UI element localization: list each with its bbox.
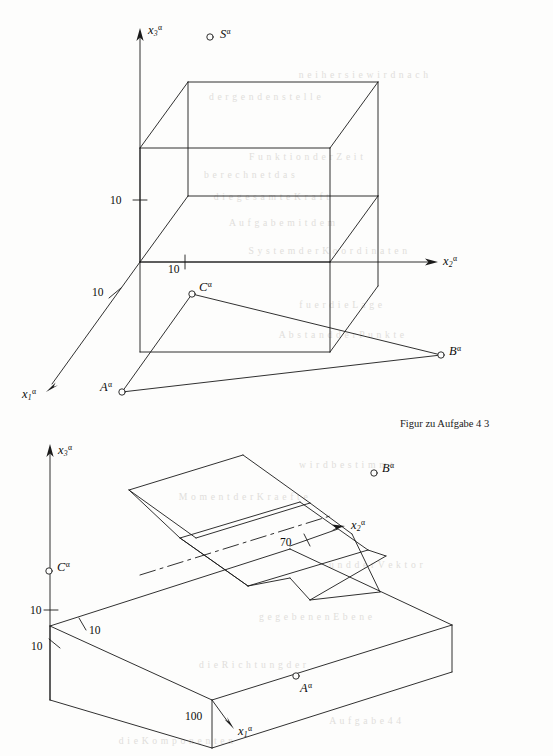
groove-exit-edge-lower: [310, 556, 386, 600]
box-bottom-left-edge: [140, 196, 188, 262]
point-label-base: A: [100, 380, 108, 394]
axis-label-base: x: [148, 23, 154, 37]
slab-top-front-left-edge: [50, 626, 212, 700]
axis-label-x3-lower: x3α: [58, 444, 72, 458]
point-label-superscript: α: [66, 560, 70, 569]
axis-label-superscript: α: [68, 443, 72, 452]
point-label-superscript: α: [457, 344, 461, 353]
lower-x1-tick-10: [49, 639, 60, 648]
point-label-superscript: α: [208, 280, 212, 289]
axis-label-x1-upper: x1α: [22, 388, 36, 402]
tick-label-70-x2-lower: 70: [280, 537, 292, 549]
groove-opening-back-edge: [129, 455, 243, 490]
triangle-edge-C-A: [122, 294, 192, 392]
box-top-left-edge: [140, 82, 188, 148]
point-label-A-lower: Aα: [300, 682, 312, 695]
axis-label-base: x: [238, 724, 244, 738]
point-label-A-upper: Aα: [100, 381, 112, 394]
point-marker-B-upper: [438, 352, 444, 358]
groove-floor-left-edge: [180, 538, 248, 586]
axis-label-superscript: α: [248, 724, 252, 733]
groove-exit-edge-left: [290, 578, 310, 600]
lower-x2-tick-10: [79, 618, 86, 630]
scanned-figure-page: n e i h e r s i e w i r d n a c hd e r g…: [0, 0, 553, 756]
triangle-edge-A-B: [122, 355, 441, 392]
figure-caption: Figur zu Aufgabe 4 3: [400, 418, 489, 429]
groove-floor-back-edge: [180, 502, 300, 538]
point-label-base: B: [382, 461, 390, 475]
tick-label-10-x2-upper: 10: [168, 264, 180, 276]
axis-label-superscript: α: [32, 387, 36, 396]
axis-label-x2-lower: x2α: [351, 519, 365, 533]
point-label-S-upper: Sα: [220, 28, 231, 41]
point-label-B-lower: Bα: [382, 462, 394, 475]
tick-label-10-x1-upper: 10: [92, 287, 104, 299]
point-marker-S: [207, 34, 213, 40]
point-label-superscript: α: [308, 681, 312, 690]
point-label-base: C: [57, 560, 65, 574]
point-label-superscript: α: [227, 27, 231, 36]
upper-figure-group: [46, 28, 444, 395]
point-marker-A-upper: [119, 389, 125, 395]
point-label-B-upper: Bα: [449, 345, 461, 358]
axis-label-x3-upper: x3α: [148, 24, 162, 38]
tick-label-10-x2-lower: 10: [89, 625, 101, 637]
point-label-base: S: [220, 27, 226, 41]
slab-top-front-right-edge: [212, 625, 452, 700]
axis-label-x2-upper: x2α: [443, 255, 457, 269]
triangle-edge-C-B: [192, 294, 441, 355]
groove-rim-edge: [196, 503, 310, 538]
figure-linework: [0, 0, 553, 756]
groove-exit-connect-edge: [248, 578, 290, 586]
groove-right-rim-edge: [310, 503, 352, 534]
slab-top-back-left-edge: [50, 549, 290, 626]
axis-label-base: x: [58, 443, 64, 457]
point-label-base: A: [300, 681, 308, 695]
point-marker-C-upper: [189, 291, 195, 297]
axis-label-superscript: α: [158, 23, 162, 32]
point-label-base: B: [449, 344, 457, 358]
groove-back-right-edge: [243, 455, 310, 503]
box-bottom-right-edge: [330, 196, 378, 262]
tick-label-100-x1-lower: 100: [185, 711, 202, 723]
slab-top-back-right-edge: [290, 549, 452, 625]
groove-floor-front-edge: [248, 550, 368, 586]
groove-exit-bottom-edge: [310, 592, 380, 600]
groove-exit-edge-upper: [352, 534, 380, 592]
axis-label-superscript: α: [361, 518, 365, 527]
upper-x1-axis: [52, 262, 140, 384]
lower-x2-axis: [290, 529, 338, 546]
groove-right-wall-edge-b: [368, 550, 386, 556]
axis-label-base: x: [22, 387, 28, 401]
axis-label-x1-lower: x1α: [238, 725, 252, 739]
point-marker-B-lower: [371, 470, 377, 476]
box-top-right-edge: [330, 82, 378, 148]
groove-centre-line: [140, 516, 330, 575]
point-marker-A-lower: [293, 673, 299, 679]
slab-bottom-front-left-edge: [50, 700, 212, 748]
point-label-C-upper: Cα: [199, 281, 212, 294]
lower-x1-axis: [212, 700, 228, 722]
tick-label-10-x3-upper: 10: [110, 195, 122, 207]
axis-label-base: x: [443, 254, 449, 268]
point-label-C-lower: Cα: [57, 561, 70, 574]
lower-figure-group: [44, 444, 452, 748]
axis-label-base: x: [351, 518, 357, 532]
tick-label-10-x1-lower: 10: [31, 641, 43, 653]
point-label-superscript: α: [108, 380, 112, 389]
lower-x2-tick-70: [304, 534, 310, 546]
groove-left-top-edge: [129, 490, 196, 538]
point-label-base: C: [199, 280, 207, 294]
axis-label-superscript: α: [453, 254, 457, 263]
groove-left-outer-edge: [129, 490, 180, 538]
lower-x2-axis-hidden: [233, 534, 333, 700]
box-lower-right-bottom-edge: [330, 286, 378, 352]
tick-label-10-x3-lower: 10: [30, 605, 42, 617]
point-label-superscript: α: [390, 461, 394, 470]
point-marker-C-lower: [46, 568, 52, 574]
